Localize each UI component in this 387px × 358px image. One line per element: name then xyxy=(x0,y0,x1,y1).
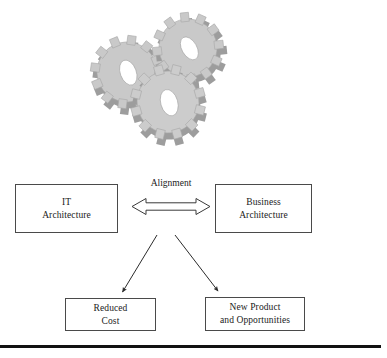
node-reduced-cost-line-1: Reduced xyxy=(94,302,128,315)
node-business-architecture[interactable]: Business Architecture xyxy=(215,184,312,233)
node-reduced-cost-line-2: Cost xyxy=(102,315,120,328)
node-it-architecture-line-2: Architecture xyxy=(42,209,91,222)
bottom-horizontal-rule xyxy=(0,345,381,348)
node-business-architecture-line-2: Architecture xyxy=(239,209,288,222)
alignment-label: Alignment xyxy=(132,178,210,188)
node-new-product-and-opportunities[interactable]: New Product and Opportunities xyxy=(205,297,305,331)
node-reduced-cost[interactable]: Reduced Cost xyxy=(65,298,156,331)
arrow-to-new-product xyxy=(175,235,218,291)
arrow-to-reduced-cost xyxy=(123,235,158,292)
figure-canvas: Alignment IT Architecture Business Archi… xyxy=(0,0,387,358)
node-new-product-line-1: New Product xyxy=(230,301,281,314)
node-business-architecture-line-1: Business xyxy=(246,196,281,209)
node-it-architecture[interactable]: IT Architecture xyxy=(15,184,118,233)
three-interlocking-gears-illustration xyxy=(82,6,232,148)
node-new-product-line-2: and Opportunities xyxy=(220,314,290,327)
alignment-double-arrow xyxy=(132,199,210,215)
node-it-architecture-line-1: IT xyxy=(62,196,71,209)
